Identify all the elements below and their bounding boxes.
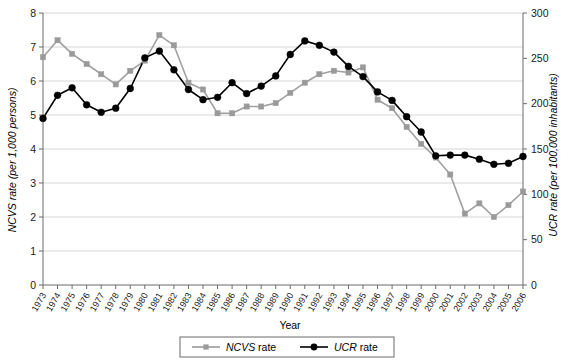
data-point-ncvs — [113, 82, 118, 87]
data-point-ucr — [214, 94, 221, 101]
rate-comparison-line-chart: 012345678 050100150200250300 19731974197… — [0, 0, 571, 362]
data-point-ncvs — [360, 65, 365, 70]
left-axis: 012345678 — [30, 7, 43, 291]
data-point-ncvs — [506, 203, 511, 208]
y-tick-label: 0 — [30, 279, 36, 291]
data-point-ucr — [505, 160, 512, 167]
y-tick-label: 8 — [30, 7, 36, 19]
data-point-ucr — [374, 88, 381, 95]
data-point-ncvs — [244, 104, 249, 109]
data-point-ucr — [127, 85, 134, 92]
data-point-ucr — [156, 48, 163, 55]
data-point-ncvs — [375, 97, 380, 102]
y-axis-title: NCVS rate (per 1,000 persons) — [6, 88, 18, 233]
data-point-ucr — [69, 84, 76, 91]
data-point-ucr — [301, 37, 308, 44]
right-axis: 050100150200250300 — [523, 7, 549, 291]
data-point-ncvs — [157, 33, 162, 38]
x-axis-title: Year — [279, 319, 301, 331]
data-point-ucr — [403, 113, 410, 120]
data-point-ucr — [389, 97, 396, 104]
data-point-ucr — [243, 90, 250, 97]
gridlines — [43, 13, 523, 251]
data-point-ucr — [141, 54, 148, 61]
legend-label: NCVS rate — [226, 341, 276, 353]
data-point-ucr — [418, 129, 425, 136]
data-point-ncvs — [302, 80, 307, 85]
data-point-ncvs — [229, 111, 234, 116]
data-point-ncvs — [171, 43, 176, 48]
y2-tick-label: 0 — [531, 279, 537, 291]
y-tick-label: 7 — [30, 41, 36, 53]
y-tick-label: 1 — [30, 245, 36, 257]
y-tick-label: 5 — [30, 109, 36, 121]
data-point-ucr — [258, 83, 265, 90]
data-point-ncvs — [186, 80, 191, 85]
data-point-ncvs — [40, 55, 45, 60]
data-point-ucr — [40, 115, 47, 122]
data-point-ncvs — [288, 90, 293, 95]
data-point-ncvs — [389, 106, 394, 111]
data-point-ucr — [83, 101, 90, 108]
data-point-ncvs — [317, 72, 322, 77]
data-point-ucr — [345, 63, 352, 70]
chart-legend: NCVS rateUCR rate — [180, 337, 394, 357]
data-point-ucr — [272, 73, 279, 80]
data-point-ucr — [360, 73, 367, 80]
data-point-ucr — [185, 86, 192, 93]
data-point-ncvs — [520, 189, 525, 194]
series-line-ncvs-rate — [43, 35, 523, 217]
data-point-ncvs — [215, 111, 220, 116]
data-point-ucr — [331, 49, 338, 56]
y-tick-label: 3 — [30, 177, 36, 189]
y-tick-label: 2 — [30, 211, 36, 223]
data-point-ncvs — [200, 87, 205, 92]
data-point-ucr — [461, 152, 468, 159]
data-point-ucr — [98, 109, 105, 116]
data-point-ncvs — [404, 124, 409, 129]
data-point-ncvs — [419, 141, 424, 146]
data-point-ucr — [520, 153, 527, 160]
data-point-ucr — [491, 161, 498, 168]
data-point-ucr — [287, 51, 294, 58]
series-layer — [40, 33, 527, 220]
data-point-ucr — [316, 42, 323, 49]
legend-label: UCR rate — [334, 341, 378, 353]
y2-tick-label: 50 — [531, 233, 543, 245]
data-point-ucr — [200, 96, 207, 103]
data-point-ncvs — [259, 104, 264, 109]
data-point-ncvs — [273, 101, 278, 106]
data-point-ucr — [447, 152, 454, 159]
chart-container: 012345678 050100150200250300 19731974197… — [0, 0, 571, 362]
x-axis: 1973197419751976197719781979198019811982… — [30, 285, 529, 313]
data-point-ucr — [171, 66, 178, 73]
data-point-ucr — [229, 79, 236, 86]
series-line-ucr-rate — [43, 41, 523, 164]
y2-tick-label: 250 — [531, 52, 549, 64]
y-tick-label: 6 — [30, 75, 36, 87]
legend-marker-square — [203, 344, 208, 349]
data-point-ncvs — [491, 214, 496, 219]
data-point-ncvs — [128, 68, 133, 73]
data-point-ucr — [432, 152, 439, 159]
data-point-ncvs — [55, 38, 60, 43]
data-point-ncvs — [346, 70, 351, 75]
data-point-ucr — [54, 92, 61, 99]
data-point-ncvs — [69, 51, 74, 56]
data-point-ncvs — [99, 72, 104, 77]
y-tick-label: 4 — [30, 143, 36, 155]
data-point-ncvs — [462, 211, 467, 216]
data-point-ncvs — [84, 61, 89, 66]
legend-marker-circle — [311, 344, 318, 351]
data-point-ucr — [476, 156, 483, 163]
x-tick-label: 2006 — [510, 291, 529, 313]
y2-axis-title: UCR rate (per 100,000 inhabitants) — [547, 73, 559, 236]
data-point-ncvs — [477, 201, 482, 206]
data-point-ncvs — [448, 172, 453, 177]
y2-tick-label: 300 — [531, 7, 549, 19]
data-point-ucr — [112, 105, 119, 112]
data-point-ncvs — [331, 68, 336, 73]
